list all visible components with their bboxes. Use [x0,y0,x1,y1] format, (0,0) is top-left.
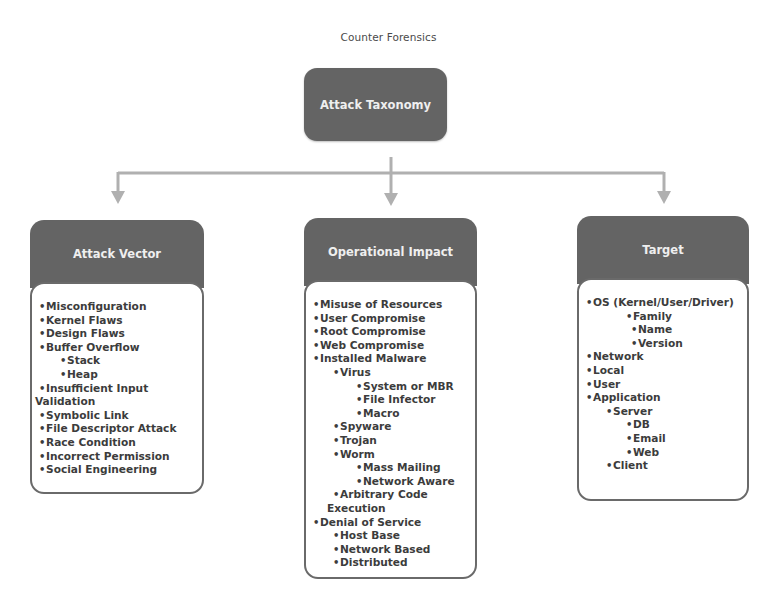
column-title: Target [642,243,683,257]
list-item-text: Kernel Flaws [46,314,123,326]
bullet-icon: • [333,556,340,570]
column-body: •OS (Kernel/User/Driver)•Family•Name•Ver… [577,278,749,501]
list-item-text: Incorrect Permission [46,450,170,462]
list-item: •Web [626,446,747,460]
arrow-head-middle [384,193,398,206]
list-item-text: Buffer Overflow [46,341,140,353]
bullet-icon: • [356,475,363,489]
column-body: •Misuse of Resources•User Compromise•Roo… [304,280,477,579]
bullet-icon: • [333,420,340,434]
list-item: •Client [606,459,747,473]
column-attack-vector: Attack Vector •Misconfiguration•Kernel F… [30,220,204,494]
list-item: •Spyware [333,420,475,434]
list-item: •Distributed [333,556,475,570]
bullet-icon: • [39,409,46,423]
list-item: •Buffer Overflow [39,341,202,355]
list-item: •Worm [333,448,475,462]
list-item: •Virus [333,366,475,380]
list-item: Execution [327,502,475,516]
column-operational-impact: Operational Impact •Misuse of Resources•… [304,218,477,579]
bullet-icon: • [586,296,593,310]
bullet-icon: • [606,405,613,419]
list-item: •Application [586,391,747,405]
list-item-text: DB [633,418,650,430]
bullet-icon: • [313,352,320,366]
list-item: •Family [626,310,747,324]
list-item: •User [586,378,747,392]
list-item: •System or MBR [356,380,475,394]
list-item-text: Family [633,310,672,322]
bullet-icon: • [313,516,320,530]
bullet-icon: • [356,407,363,421]
list-item-text: User Compromise [320,312,425,324]
arrow-head-right [657,191,671,204]
bullet-icon: • [313,325,320,339]
list-item: •Mass Mailing [356,461,475,475]
list-item-text: OS (Kernel/User/Driver) [593,296,734,308]
bullet-icon: • [333,529,340,543]
list-item: •Version [631,337,747,351]
bullet-icon: • [39,300,46,314]
bullet-icon: • [39,436,46,450]
list-item: •Email [626,432,747,446]
list-item: •Heap [60,368,202,382]
bullet-icon: • [586,350,593,364]
list-item: •Social Engineering [39,463,202,477]
bullet-icon: • [626,446,633,460]
list-item: •File Infector [356,393,475,407]
list-item: •Misconfiguration [39,300,202,314]
list-item-text: Insufficient Input [46,382,148,394]
list-item-text: Heap [67,368,98,380]
list-item: •Design Flaws [39,327,202,341]
list-item: •Network Based [333,543,475,557]
bullet-icon: • [313,298,320,312]
list-item: •Web Compromise [313,339,475,353]
list-item-text: Root Compromise [320,325,426,337]
list-item-text: Virus [340,366,371,378]
bullet-icon: • [333,366,340,380]
list-item: •Denial of Service [313,516,475,530]
bullet-icon: • [60,368,67,382]
taxonomy-diagram: Counter Forensics Attack Taxonomy Attack… [0,0,777,602]
column-header: Target [577,216,749,284]
list-item-text: Application [593,391,661,403]
bullet-icon: • [60,354,67,368]
column-body: •Misconfiguration•Kernel Flaws•Design Fl… [30,282,204,494]
bullet-icon: • [631,337,638,351]
bullet-icon: • [606,459,613,473]
list-item-text: Worm [340,448,375,460]
list-item-text: System or MBR [363,380,454,392]
list-item: •Incorrect Permission [39,450,202,464]
bullet-icon: • [39,341,46,355]
bullet-icon: • [586,364,593,378]
bullet-icon: • [39,327,46,341]
list-item: •Host Base [333,529,475,543]
list-item: •DB [626,418,747,432]
bullet-icon: • [39,463,46,477]
bullet-icon: • [39,314,46,328]
bullet-icon: • [626,432,633,446]
list-item: •Name [631,323,747,337]
list-item-text: Spyware [340,420,391,432]
column-header: Attack Vector [30,220,204,288]
list-item: •Trojan [333,434,475,448]
list-item: •OS (Kernel/User/Driver) [586,296,747,310]
list-item-text: Host Base [340,529,400,541]
list-item-text: Execution [327,502,386,514]
bullet-icon: • [586,391,593,405]
bullet-icon: • [631,323,638,337]
list-item-text: Name [638,323,672,335]
root-node-title: Attack Taxonomy [320,98,431,112]
bullet-icon: • [356,393,363,407]
list-item: •Race Condition [39,436,202,450]
list-item: •User Compromise [313,312,475,326]
bullet-icon: • [626,418,633,432]
list-item-text: Mass Mailing [363,461,441,473]
list-item-text: Client [613,459,648,471]
list-item: •Arbitrary Code [333,488,475,502]
list-item-text: Installed Malware [320,352,426,364]
list-item: •Network Aware [356,475,475,489]
list-item-text: Network Based [340,543,430,555]
list-item: •Network [586,350,747,364]
list-item-text: File Infector [363,393,436,405]
